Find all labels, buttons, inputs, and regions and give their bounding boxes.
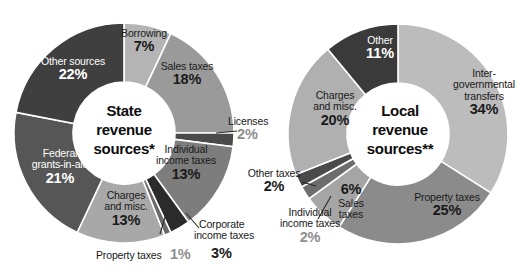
revenue-sources-figure: Borrowing 7% Sales taxes 18% Licenses 2%… (0, 0, 522, 272)
label-borrowing: Borrowing 7% (111, 28, 177, 55)
label-sales-taxes-left: Sales taxes 18% (150, 61, 224, 88)
local-center-title: Local revenue sources** (352, 102, 448, 158)
label-corporate-pct: 3% (211, 246, 232, 262)
label-charges-and-misc-left: Charges and misc. 13% (91, 190, 161, 228)
label-other-taxes-right: Other taxes 2% (240, 168, 308, 195)
label-licenses: Licenses 2% (228, 116, 288, 143)
state-center-title: State revenue sources* (82, 102, 166, 158)
label-other-sources: Other sources 22% (29, 56, 117, 83)
label-corporate-income-taxes: Corporate income taxes (194, 219, 268, 242)
label-intergovernmental-transfers: Inter- governmental transfers 34% (444, 68, 522, 118)
label-other-right: Other 11% (352, 35, 408, 62)
label-property-taxes-left: Property taxes 1% (96, 245, 191, 263)
label-property-taxes-right: Property taxes 25% (404, 192, 490, 219)
label-individual-income-taxes-right: Individual income taxes 2% (265, 207, 355, 245)
